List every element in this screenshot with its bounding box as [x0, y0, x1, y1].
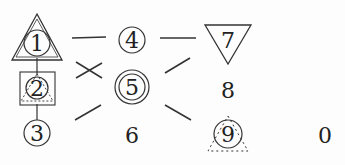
cell-label: 3: [30, 121, 44, 146]
cell-label: 5: [125, 75, 139, 100]
cell-label: 7: [221, 28, 235, 53]
connector-3-5: [75, 105, 101, 120]
cell-5[interactable]: 5: [115, 70, 149, 104]
cell-4[interactable]: 4: [119, 27, 145, 53]
cell-1[interactable]: 1: [12, 14, 62, 60]
cell-6[interactable]: 6: [125, 123, 139, 148]
cell-2[interactable]: 2: [20, 72, 55, 105]
cell-7[interactable]: 7: [205, 25, 251, 64]
cell-label: 0: [318, 123, 332, 148]
cell-label: 9: [221, 122, 235, 147]
puzzle-board: 1 2 3 4 5 6 7 8 9 0: [0, 0, 345, 165]
connector-lines: [37, 37, 196, 120]
connector-1-4: [72, 37, 106, 38]
cell-3[interactable]: 3: [24, 120, 50, 146]
cell-label: 6: [125, 123, 139, 148]
cell-8[interactable]: 8: [221, 78, 235, 103]
cell-0[interactable]: 0: [318, 123, 332, 148]
cell-label: 8: [221, 78, 235, 103]
connector-5-7: [165, 58, 190, 73]
connector-5-9: [165, 105, 191, 120]
cell-label: 4: [125, 28, 139, 53]
cell-9[interactable]: 9: [208, 116, 248, 151]
cell-label: 2: [30, 76, 44, 101]
puzzle-canvas: 1 2 3 4 5 6 7 8 9 0: [0, 0, 345, 165]
cell-label: 1: [30, 31, 44, 56]
